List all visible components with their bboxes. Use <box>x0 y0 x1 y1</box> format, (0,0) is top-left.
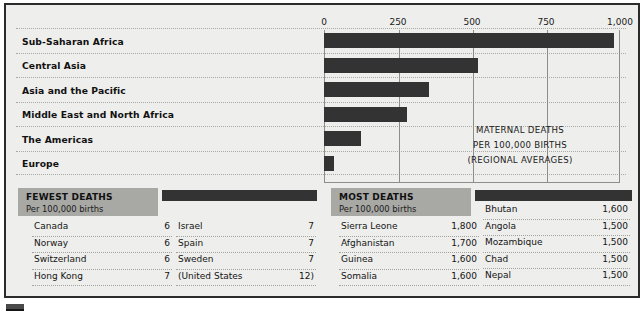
x-axis-tick: 250 <box>389 17 406 27</box>
table-row: Canada6 <box>32 220 172 237</box>
country-name: Chad <box>485 254 508 264</box>
region-label: Sub-Saharan Africa <box>22 35 124 46</box>
country-name: Spain <box>178 238 203 248</box>
chart-annotation: MATERNAL DEATHS PER 100,000 BIRTHS (REGI… <box>404 123 636 168</box>
table-row: (United States12) <box>176 270 316 287</box>
bar <box>324 82 429 97</box>
country-name: (United States <box>178 271 242 281</box>
most-deaths-title: MOST DEATHS <box>339 191 471 203</box>
most-deaths-column-2: Bhutan1,600Angola1,500Mozambique1,500Cha… <box>483 203 630 286</box>
region-label: Europe <box>22 157 59 168</box>
header-accent-bar <box>162 190 317 201</box>
death-rate-value: 1,600 <box>451 254 477 264</box>
fewest-deaths-column-1: Canada6Norway6Switzerland6Hong Kong7 <box>32 220 172 286</box>
death-rate-value: 6 <box>164 254 170 264</box>
country-name: Switzerland <box>34 254 87 264</box>
country-name: Afghanistan <box>341 238 395 248</box>
country-name: Sierra Leone <box>341 221 398 231</box>
death-rate-value: 12) <box>299 271 314 281</box>
region-label: Asia and the Pacific <box>22 84 126 95</box>
table-row: Norway6 <box>32 237 172 254</box>
x-axis-tick: 0 <box>321 17 327 27</box>
table-row: Sierra Leone1,800 <box>339 220 479 237</box>
fewest-deaths-header: FEWEST DEATHS Per 100,000 births <box>18 188 158 216</box>
regional-bar-chart: 02505007501,000 Sub-Saharan AfricaCentra… <box>6 5 638 183</box>
fewest-deaths-column-2: Israel7Spain7Sweden7(United States12) <box>176 220 316 286</box>
most-deaths-subtitle: Per 100,000 births <box>339 203 471 215</box>
table-row: Switzerland6 <box>32 253 172 270</box>
table-row: Mozambique1,500 <box>483 236 630 253</box>
death-rate-value: 7 <box>308 221 314 231</box>
x-axis-tick: 1,000 <box>607 17 633 27</box>
annotation-line-3: (REGIONAL AVERAGES) <box>404 153 636 168</box>
death-rate-value: 1,700 <box>451 238 477 248</box>
death-rate-value: 1,500 <box>602 237 628 247</box>
country-name: Angola <box>485 221 516 231</box>
death-rate-value: 1,600 <box>602 204 628 214</box>
most-deaths-column-1: Sierra Leone1,800Afghanistan1,700Guinea1… <box>339 220 479 286</box>
country-name: Norway <box>34 238 68 248</box>
annotation-line-1: MATERNAL DEATHS <box>404 123 636 138</box>
country-name: Sweden <box>178 254 214 264</box>
table-row: Somalia1,600 <box>339 270 479 287</box>
region-label: Central Asia <box>22 60 86 71</box>
table-row: Israel7 <box>176 220 316 237</box>
death-rate-value: 1,500 <box>602 254 628 264</box>
country-name: Nepal <box>485 270 511 280</box>
country-name: Mozambique <box>485 237 542 247</box>
most-deaths-header: MOST DEATHS Per 100,000 births <box>331 188 471 216</box>
bar <box>324 156 334 171</box>
header-accent-bar <box>475 190 632 201</box>
most-deaths-table: MOST DEATHS Per 100,000 births Sierra Le… <box>331 188 630 296</box>
infographic-panel: 02505007501,000 Sub-Saharan AfricaCentra… <box>4 3 640 298</box>
table-row: Afghanistan1,700 <box>339 237 479 254</box>
x-axis-tick: 750 <box>537 17 554 27</box>
country-name: Israel <box>178 221 203 231</box>
death-rate-value: 1,600 <box>451 271 477 281</box>
death-rate-value: 7 <box>308 238 314 248</box>
bar <box>324 33 614 48</box>
death-rate-value: 1,800 <box>451 221 477 231</box>
country-name: Canada <box>34 221 68 231</box>
annotation-line-2: PER 100,000 BIRTHS <box>404 138 636 153</box>
death-rate-value: 1,500 <box>602 270 628 280</box>
table-row: Angola1,500 <box>483 220 630 237</box>
region-label: Middle East and North Africa <box>22 109 174 120</box>
x-axis-tick: 500 <box>463 17 480 27</box>
country-name: Hong Kong <box>34 271 83 281</box>
death-rate-value: 7 <box>164 271 170 281</box>
table-row: Spain7 <box>176 237 316 254</box>
death-rate-value: 6 <box>164 238 170 248</box>
fewest-deaths-title: FEWEST DEATHS <box>26 191 158 203</box>
death-rate-value: 6 <box>164 221 170 231</box>
death-rate-value: 7 <box>308 254 314 264</box>
table-row: Bhutan1,600 <box>483 203 630 220</box>
country-name: Bhutan <box>485 204 517 214</box>
table-row: Nepal1,500 <box>483 269 630 286</box>
bar <box>324 58 478 73</box>
table-row: Hong Kong7 <box>32 270 172 287</box>
bar <box>324 131 361 146</box>
table-row: Sweden7 <box>176 253 316 270</box>
death-rate-value: 1,500 <box>602 221 628 231</box>
country-name: Somalia <box>341 271 377 281</box>
table-row: Chad1,500 <box>483 253 630 270</box>
bar <box>324 107 407 122</box>
table-row: Guinea1,600 <box>339 253 479 270</box>
fewest-deaths-subtitle: Per 100,000 births <box>26 203 158 215</box>
country-name: Guinea <box>341 254 373 264</box>
corner-registration-mark <box>6 304 24 311</box>
fewest-deaths-table: FEWEST DEATHS Per 100,000 births Canada6… <box>18 188 320 296</box>
region-label: The Americas <box>22 133 93 144</box>
